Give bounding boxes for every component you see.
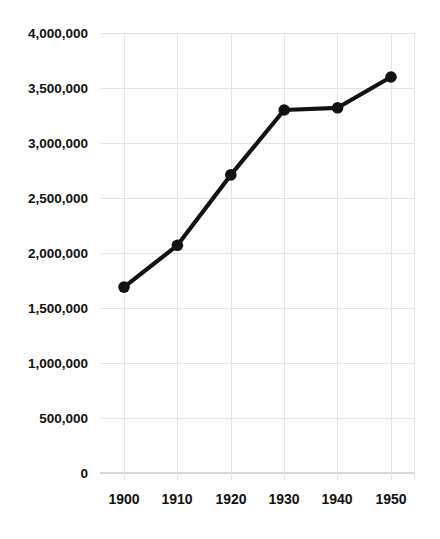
- x-tick-label: 1940: [321, 491, 352, 507]
- x-tick-label: 1900: [108, 491, 139, 507]
- chart-canvas: 4,000,000 3,500,000 3,000,000 2,500,000 …: [0, 0, 440, 539]
- x-tick-label: 1950: [375, 491, 406, 507]
- data-point: [225, 169, 237, 181]
- x-tick-label: 1910: [161, 491, 192, 507]
- data-point: [172, 239, 184, 251]
- y-tick-label: 0: [80, 466, 88, 481]
- data-point: [278, 104, 290, 116]
- y-tick-label: 2,500,000: [28, 191, 88, 206]
- y-tick-label: 500,000: [39, 411, 88, 426]
- y-tick-label: 3,500,000: [28, 81, 88, 96]
- y-tick-label: 2,000,000: [28, 246, 88, 261]
- y-tick-label: 3,000,000: [28, 136, 88, 151]
- y-tick-label: 1,500,000: [28, 301, 88, 316]
- data-point: [332, 102, 344, 114]
- data-point: [385, 71, 397, 83]
- data-point: [118, 281, 130, 293]
- y-tick-label: 4,000,000: [28, 26, 88, 41]
- line-chart: 4,000,000 3,500,000 3,000,000 2,500,000 …: [0, 0, 440, 539]
- x-tick-label: 1920: [215, 491, 246, 507]
- x-tick-label: 1930: [268, 491, 299, 507]
- y-tick-label: 1,000,000: [28, 356, 88, 371]
